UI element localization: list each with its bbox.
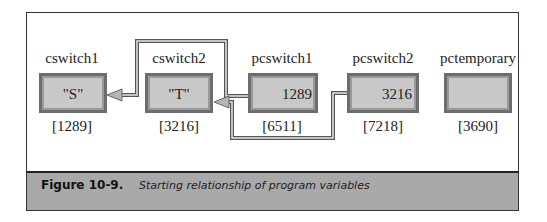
var-address-pcswitch2: [7218] — [333, 118, 433, 135]
figure-label: Figure 10-9. — [41, 178, 123, 192]
var-box-pcswitch1: 1289 — [248, 73, 318, 113]
var-name-pctemporary: pctemporary — [428, 50, 528, 67]
var-value: "T" — [148, 86, 210, 103]
var-name-cswitch1: cswitch1 — [22, 50, 122, 67]
var-address-cswitch1: [1289] — [22, 118, 122, 135]
var-box-pcswitch2: 3216 — [347, 73, 419, 113]
arrowhead-icon — [107, 89, 122, 101]
var-box-cswitch2: "T" — [145, 73, 213, 113]
var-name-pcswitch1: pcswitch1 — [232, 50, 332, 67]
var-name-pcswitch2: pcswitch2 — [333, 50, 433, 67]
figure-caption: Starting relationship of program variabl… — [139, 179, 370, 192]
var-address-pcswitch1: [6511] — [232, 118, 332, 135]
figure-caption-bar: Figure 10-9. Starting relationship of pr… — [26, 171, 519, 211]
var-value: 1289 — [265, 86, 329, 103]
var-address-pctemporary: [3690] — [428, 118, 528, 135]
var-address-cswitch2: [3216] — [129, 118, 229, 135]
var-value: 3216 — [364, 86, 430, 103]
var-value: "S" — [42, 86, 104, 103]
var-name-cswitch2: cswitch2 — [129, 50, 229, 67]
var-box-pctemporary — [444, 73, 512, 113]
arrowhead-icon — [214, 96, 229, 108]
var-box-cswitch1: "S" — [39, 73, 107, 113]
